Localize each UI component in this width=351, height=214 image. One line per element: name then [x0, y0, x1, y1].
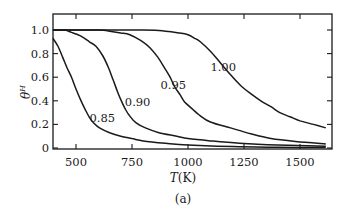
y-tick-label: 0.4: [31, 94, 49, 108]
y-axis-title-sup: H: [18, 84, 27, 93]
y-tick-label: 1.0: [31, 23, 49, 37]
x-tick-label: 750: [121, 155, 143, 169]
x-tick-label: 1250: [229, 155, 258, 169]
curve-label-0-90: 0.90: [125, 95, 151, 109]
curve-label-0-95: 0.95: [160, 78, 186, 92]
figure-caption: (a): [175, 192, 192, 206]
curve-0-90: [53, 30, 326, 146]
x-axis-title: T(K): [170, 171, 196, 185]
x-tick-label: 1000: [173, 155, 202, 169]
y-tick-label: 0.6: [31, 70, 49, 84]
curve-0-85: [53, 38, 326, 147]
plot-border: [53, 14, 332, 149]
y-axis-title: θH: [18, 84, 33, 99]
x-tick-label: 1500: [285, 155, 314, 169]
curve-0-95: [53, 30, 326, 144]
curve-label-1-00: 1.00: [210, 60, 236, 74]
curve-label-0-85: 0.85: [89, 111, 115, 125]
x-tick-label: 500: [65, 155, 87, 169]
y-tick-label: 0.8: [31, 47, 49, 61]
data-curves: [53, 30, 326, 148]
y-tick-label: 0: [42, 141, 49, 155]
y-tick-label: 0.2: [31, 117, 49, 131]
curve-labels: 0.850.900.951.00: [89, 60, 236, 125]
theta-vs-temperature-chart: 50075010001250150000.20.40.60.81.0 0.850…: [0, 0, 351, 214]
plot-frame: [53, 14, 332, 149]
x-axis-title-unit: (K): [178, 171, 196, 185]
